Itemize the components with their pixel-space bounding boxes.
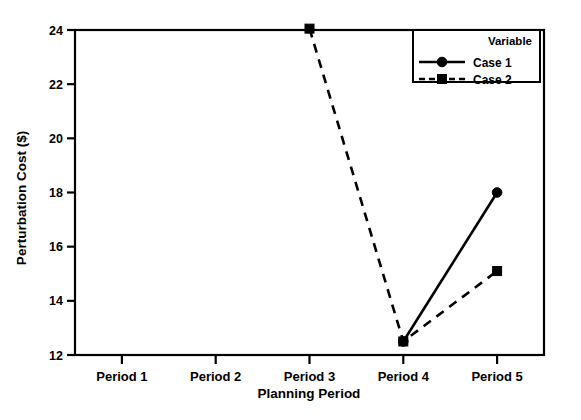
y-tick-label: 24: [49, 24, 63, 38]
legend-marker-sample: [438, 75, 447, 84]
x-tick-label: Period 1: [96, 369, 147, 384]
y-tick-label: 20: [49, 132, 63, 146]
y-tick-label: 16: [49, 240, 63, 254]
legend-item-label: Case 2: [473, 73, 512, 87]
data-point-marker: [305, 24, 314, 33]
legend[interactable]: VariableCase 1Case 2: [413, 30, 540, 87]
legend-marker-sample: [437, 57, 447, 67]
data-point-marker: [492, 188, 502, 198]
data-point-marker: [399, 337, 408, 346]
y-tick-label: 18: [49, 186, 63, 200]
x-axis-title: Planning Period: [258, 386, 361, 401]
x-tick-label: Period 5: [471, 369, 522, 384]
perturbation-cost-line-chart: 12141618202224 Period 1Period 2Period 3P…: [0, 0, 581, 420]
y-tick-label: 22: [49, 78, 63, 92]
legend-item-label: Case 1: [473, 56, 512, 70]
y-tick-label: 14: [49, 294, 63, 308]
x-tick-label: Period 3: [284, 369, 335, 384]
x-tick-label: Period 4: [378, 369, 430, 384]
chart-container: 12141618202224 Period 1Period 2Period 3P…: [0, 0, 581, 420]
y-tick-label: 12: [49, 349, 63, 363]
data-point-marker: [493, 267, 502, 276]
y-axis-title: Perturbation Cost ($): [14, 131, 29, 265]
x-tick-label: Period 2: [190, 369, 241, 384]
legend-title: Variable: [488, 35, 532, 47]
